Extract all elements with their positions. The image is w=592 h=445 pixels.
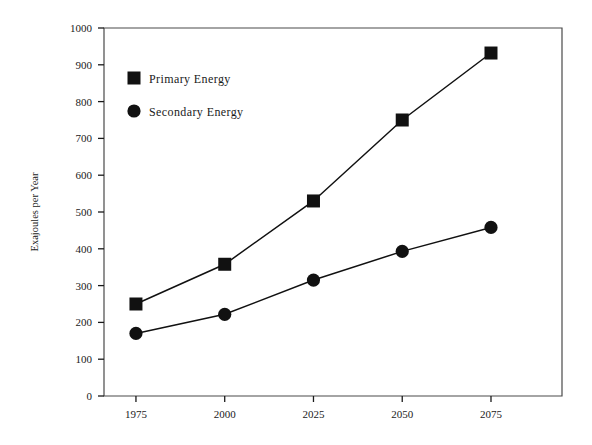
legend-circle-icon: [127, 104, 140, 117]
data-series-group: [129, 47, 497, 341]
data-point-marker: [218, 258, 231, 271]
data-series: [129, 221, 497, 340]
line-chart: 01002003004005006007008009001000 1975200…: [0, 0, 592, 445]
y-tick-label: 100: [76, 353, 93, 365]
series-line: [136, 53, 491, 304]
legend-square-icon: [128, 72, 141, 85]
y-tick-label: 900: [76, 59, 93, 71]
y-tick-label: 800: [76, 96, 93, 108]
data-point-marker: [129, 327, 142, 340]
data-point-marker: [484, 47, 497, 60]
x-tick-label: 2075: [480, 408, 503, 420]
data-series: [129, 47, 497, 311]
x-axis-ticks: 19752000202520502075: [125, 396, 503, 420]
data-point-marker: [218, 308, 231, 321]
x-tick-label: 2000: [214, 408, 237, 420]
chart-legend: Primary EnergySecondary Energy: [127, 72, 243, 119]
x-tick-label: 2050: [391, 408, 414, 420]
y-tick-label: 1000: [70, 22, 93, 34]
data-point-marker: [307, 273, 320, 286]
y-tick-label: 300: [76, 280, 93, 292]
y-tick-label: 700: [76, 132, 93, 144]
legend-label: Primary Energy: [149, 72, 231, 86]
y-tick-label: 0: [87, 390, 93, 402]
y-tick-label: 500: [76, 206, 93, 218]
x-tick-label: 2025: [302, 408, 325, 420]
y-axis-ticks: 01002003004005006007008009001000: [70, 22, 104, 402]
y-tick-label: 600: [76, 169, 93, 181]
y-tick-label: 400: [76, 243, 93, 255]
y-tick-label: 200: [76, 316, 93, 328]
legend-label: Secondary Energy: [149, 105, 243, 119]
data-point-marker: [396, 114, 409, 127]
data-point-marker: [307, 194, 320, 207]
chart-figure: 01002003004005006007008009001000 1975200…: [0, 0, 592, 445]
data-point-marker: [396, 245, 409, 258]
data-point-marker: [129, 298, 142, 311]
data-point-marker: [484, 221, 497, 234]
y-axis-title: Exajoules per Year: [29, 172, 40, 252]
x-tick-label: 1975: [125, 408, 148, 420]
